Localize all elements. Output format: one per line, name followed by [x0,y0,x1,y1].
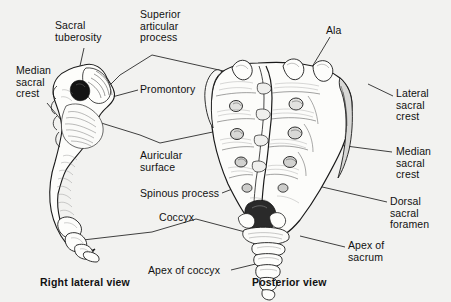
label-median-sacral-crest-right: Median sacral crest [396,146,431,181]
label-sacral-tuberosity: Sacral tuberosity [55,20,102,43]
label-spinous-process: Spinous process [140,188,219,200]
caption-posterior-view: Posterior view [252,277,327,289]
label-apex-of-coccyx: Apex of coccyx [148,265,220,277]
label-coccyx: Coccyx [159,212,194,224]
label-dorsal-sacral-foramen: Dorsal sacral foramen [390,196,429,231]
label-median-sacral-crest-left: Median sacral crest [16,65,51,100]
label-apex-of-sacrum: Apex of sacrum [348,240,384,263]
label-ala: Ala [326,25,341,37]
label-auricular-surface: Auricular surface [140,150,182,173]
label-promontory: Promontory [140,84,195,96]
label-superior-articular-process: Superior articular process [140,9,181,44]
label-lateral-sacral-crest: Lateral sacral crest [396,88,429,123]
caption-right-lateral-view: Right lateral view [40,277,130,289]
